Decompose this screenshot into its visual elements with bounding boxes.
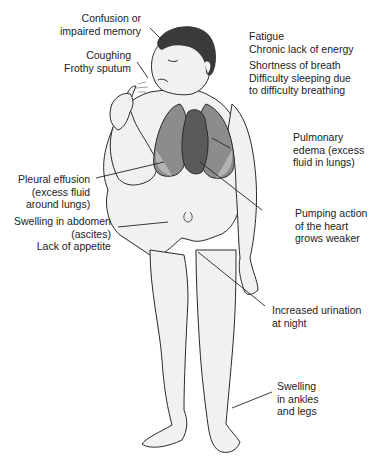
label-pleural-effusion: Pleural effusion (excess fluid around lu… xyxy=(18,173,90,211)
head xyxy=(151,26,216,94)
label-shortness-of-breath: Shortness of breath Difficulty sleeping … xyxy=(249,59,351,97)
label-increased-urination: Increased urination at night xyxy=(272,304,361,329)
cough-spray xyxy=(136,82,148,92)
heart xyxy=(182,110,208,174)
label-coughing: Coughing Frothy sputum xyxy=(64,49,131,74)
label-pumping-action: Pumping action of the heart grows weaker xyxy=(295,207,367,245)
label-fatigue: Fatigue Chronic lack of energy xyxy=(249,30,353,55)
label-abdomen-swelling: Swelling in abdomen (ascites) Lack of ap… xyxy=(14,215,111,253)
label-pulmonary-edema: Pulmonary edema (excess fluid in lungs) xyxy=(293,131,364,169)
label-ankle-swelling: Swelling in ankles and legs xyxy=(277,380,318,418)
label-confusion: Confusion or impaired memory xyxy=(60,12,141,37)
